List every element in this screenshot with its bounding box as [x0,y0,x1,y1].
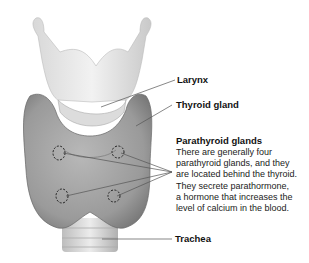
larynx-cartilage [33,18,151,102]
description-line: level of calcium in the blood. [176,203,309,214]
description-line: parathyroid glands, and they [176,158,309,169]
description-line: They secrete parathormone, [176,181,309,192]
larynx-label: Larynx [177,74,208,85]
parathyroid-glands-label: Parathyroid glands [176,135,262,146]
description-line: a hormone that increases the [176,192,309,203]
thyroid-illustration [0,0,309,263]
description-line: are located behind the thyroid. [176,169,309,180]
thyroid-gland-label: Thyroid gland [176,99,239,110]
trachea-label: Trachea [175,233,211,244]
parathyroid-description: There are generally four parathyroid gla… [176,147,309,214]
description-line: There are generally four [176,147,309,158]
